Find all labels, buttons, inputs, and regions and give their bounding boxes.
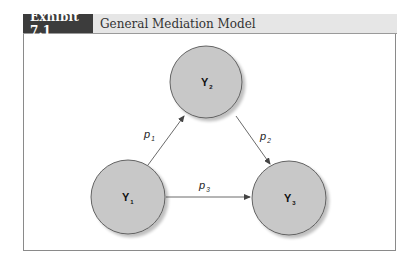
node-y3: Y3 [252,161,326,235]
mediation-diagram: p1 p2 p3 Y2 Y1 Y3 [0,0,416,266]
node-y2: Y2 [170,46,242,118]
edge-label-p1: p1 [143,128,155,142]
edge-label-p2: p2 [259,130,271,144]
node-y1: Y1 [91,160,165,234]
edge-label-p3: p3 [198,179,210,193]
